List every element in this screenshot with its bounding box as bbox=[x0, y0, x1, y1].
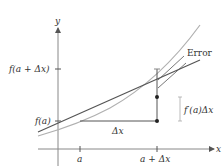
x-axis-label: x bbox=[216, 144, 221, 154]
tick-label-fa: f(a) bbox=[34, 116, 51, 126]
y-axis-label: y bbox=[54, 16, 61, 26]
point-tangent bbox=[155, 95, 159, 99]
rise-label: f′(a)Δx bbox=[183, 105, 213, 115]
run-label: Δx bbox=[111, 126, 124, 136]
tick-label-fa-plus-dx: f(a + Δx) bbox=[8, 64, 50, 74]
linear-approximation-diagram: y x a a + Δx f(a) f(a + Δx) Error f′(a)Δ… bbox=[0, 0, 224, 168]
function-curve bbox=[38, 25, 200, 136]
tick-label-a: a bbox=[77, 154, 82, 164]
point-corner bbox=[155, 119, 159, 123]
error-label: Error bbox=[187, 48, 213, 58]
tick-label-a-plus-dx: a + Δx bbox=[140, 154, 170, 164]
